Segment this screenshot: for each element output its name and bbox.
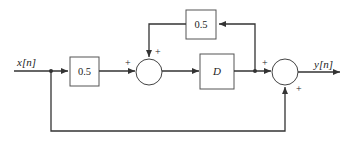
block-diagram: x[n] 0.5 0.5 D y[n] + + + + <box>0 0 355 142</box>
input-label: x[n] <box>16 56 36 68</box>
summer2-sign-left: + <box>262 57 268 68</box>
summer-1 <box>136 59 162 85</box>
summer2-sign-bottom: + <box>296 83 302 94</box>
summer1-sign-top: + <box>155 46 161 57</box>
output-label: y[n] <box>313 58 333 70</box>
delay-label: D <box>212 65 221 77</box>
gain-feedback-label: 0.5 <box>194 19 207 30</box>
summer-2 <box>272 59 298 85</box>
gain-input-label: 0.5 <box>78 66 91 77</box>
input-signal <box>14 69 68 73</box>
summer1-sign-left: + <box>125 57 131 68</box>
